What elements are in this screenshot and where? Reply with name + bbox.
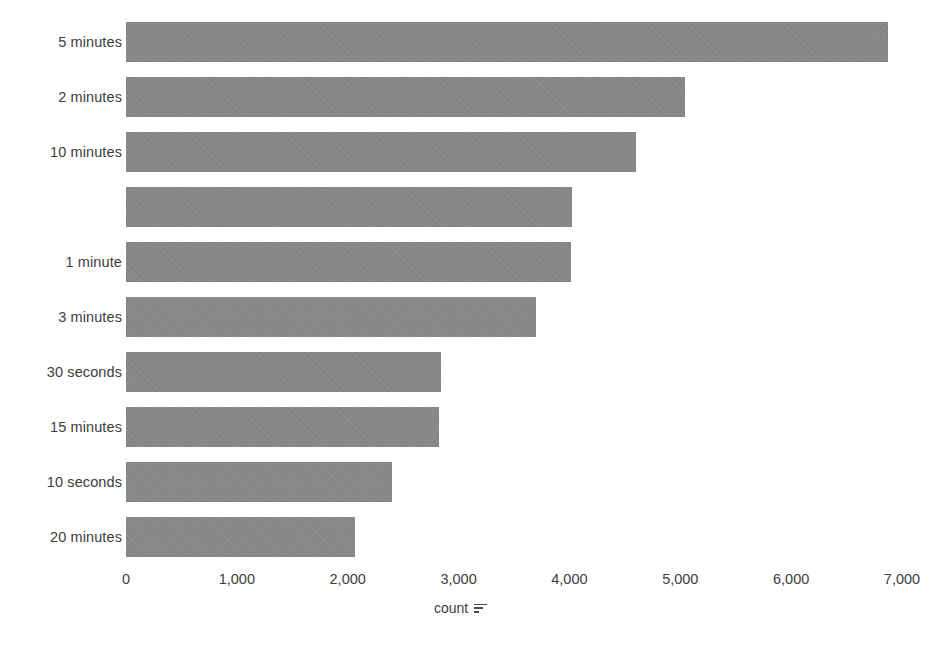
category-label: 30 seconds	[0, 364, 122, 380]
bar[interactable]	[126, 132, 636, 172]
bar-row: 20 minutes	[0, 517, 945, 557]
category-label: 15 minutes	[0, 419, 122, 435]
x-tick-label: 7,000	[842, 571, 945, 587]
x-tick-label: 5,000	[620, 571, 740, 587]
x-tick-label: 1,000	[177, 571, 297, 587]
bar-row: 30 seconds	[0, 352, 945, 392]
bar-row: 10 seconds	[0, 462, 945, 502]
x-tick-label: 6,000	[731, 571, 851, 587]
bar[interactable]	[126, 352, 441, 392]
category-label: 1 minute	[0, 254, 122, 270]
category-label: 5 minutes	[0, 34, 122, 50]
sort-descending-icon[interactable]	[474, 604, 487, 615]
bar[interactable]	[126, 187, 572, 227]
bar-row: 15 minutes	[0, 407, 945, 447]
x-tick-label: 2,000	[288, 571, 408, 587]
bar[interactable]	[126, 297, 536, 337]
x-axis-title-label: count	[434, 600, 468, 616]
bar[interactable]	[126, 517, 355, 557]
category-label: 3 minutes	[0, 309, 122, 325]
bar[interactable]	[126, 77, 685, 117]
x-tick-label: 4,000	[509, 571, 629, 587]
bar-row: 1 minute	[0, 242, 945, 282]
bar[interactable]	[126, 242, 571, 282]
x-axis: 01,0002,0003,0004,0005,0006,0007,000	[0, 565, 945, 599]
bar-row: 5 minutes	[0, 22, 945, 62]
bar-row: 10 minutes	[0, 132, 945, 172]
x-tick-label: 3,000	[399, 571, 519, 587]
x-axis-title: count	[0, 600, 945, 616]
bar-chart: 5 minutes2 minutes10 minutes1 minute3 mi…	[0, 0, 945, 649]
bar[interactable]	[126, 22, 888, 62]
category-label: 20 minutes	[0, 529, 122, 545]
bar-row: 2 minutes	[0, 77, 945, 117]
bar[interactable]	[126, 462, 392, 502]
bar[interactable]	[126, 407, 439, 447]
category-label: 10 minutes	[0, 144, 122, 160]
plot-area: 5 minutes2 minutes10 minutes1 minute3 mi…	[0, 0, 945, 565]
bar-row: 3 minutes	[0, 297, 945, 337]
bar-row	[0, 187, 945, 227]
category-label: 2 minutes	[0, 89, 122, 105]
x-tick-label: 0	[66, 571, 186, 587]
category-label: 10 seconds	[0, 474, 122, 490]
